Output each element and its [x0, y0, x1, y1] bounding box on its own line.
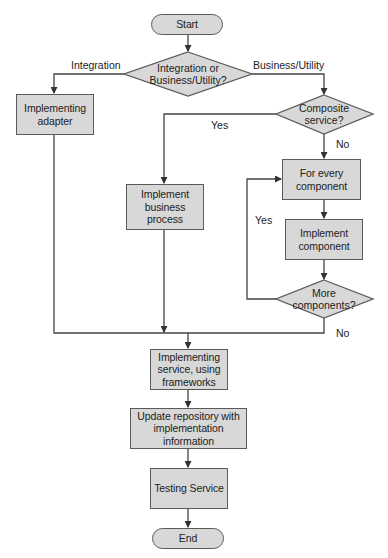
- decision-type-label: Integration or Business/Utility?: [134, 60, 242, 88]
- edge-label-more-no: No: [336, 327, 349, 339]
- edge-label-composite-no: No: [336, 138, 349, 150]
- edge-label-more-yes: Yes: [255, 214, 272, 226]
- decision-composite-label: Composite service?: [286, 101, 362, 127]
- implement-component-node: Implement component: [285, 219, 363, 260]
- edge-label-composite-yes: Yes: [211, 119, 228, 131]
- update-repository-node: Update repository with implementation in…: [130, 408, 247, 449]
- decision-more-label: More components?: [280, 286, 368, 312]
- for-every-component-node: For every component: [282, 159, 361, 200]
- edge-label-business-utility: Business/Utility: [253, 59, 324, 71]
- end-node: End: [152, 528, 224, 549]
- implement-business-process-node: Implement business process: [126, 184, 204, 230]
- edge-label-integration: Integration: [71, 59, 121, 71]
- testing-service-node: Testing Service: [150, 468, 228, 509]
- implementing-service-node: Implementing service, using frameworks: [150, 349, 228, 390]
- start-node: Start: [151, 14, 223, 35]
- implementing-adapter-node: Implementing adapter: [16, 94, 94, 135]
